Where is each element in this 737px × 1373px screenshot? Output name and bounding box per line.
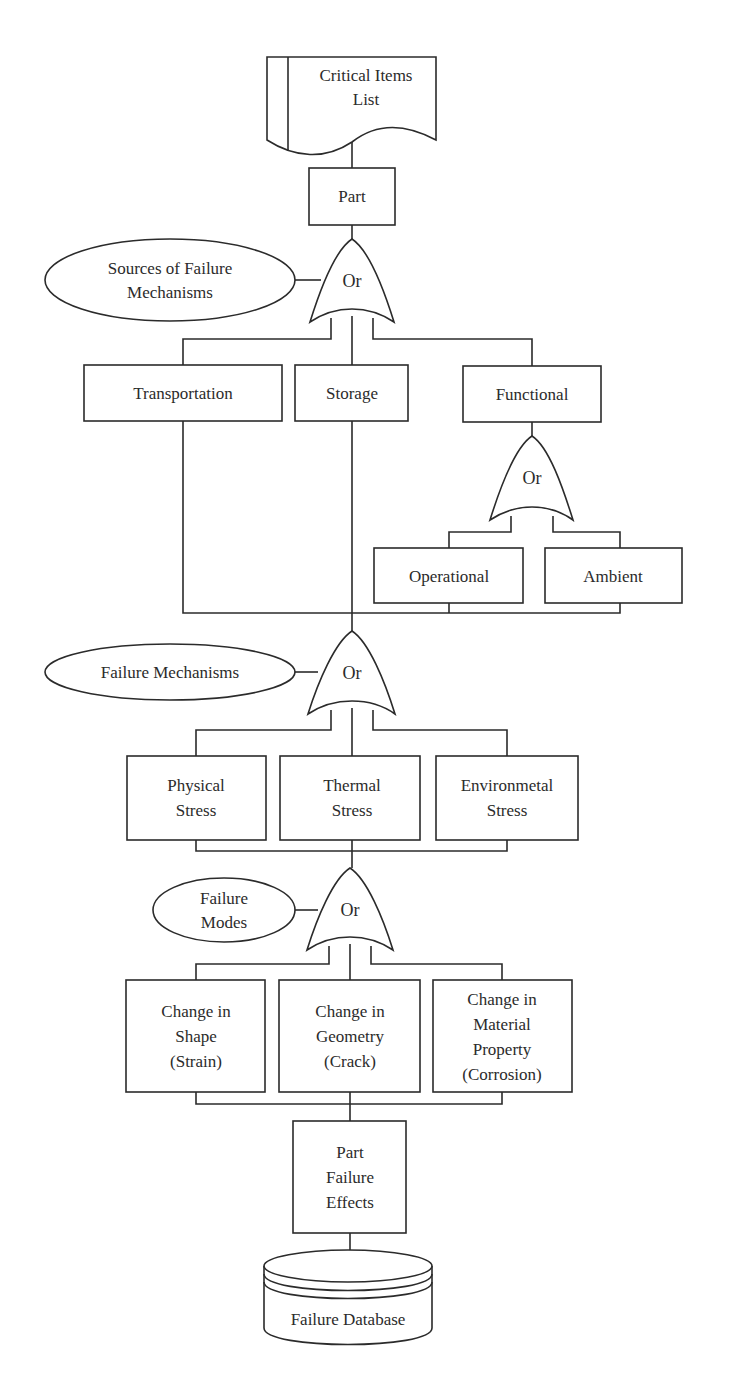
transportation-label: Transportation (133, 384, 233, 403)
environmental-stress-line-1: Environmetal (461, 776, 554, 795)
change-material-line-1: Change in (467, 990, 537, 1009)
or-gate-functional: Or (490, 436, 573, 520)
storage-label: Storage (326, 384, 378, 403)
edge-gate1-to-children (183, 316, 532, 366)
part-box: Part (309, 168, 395, 225)
change-material-line-4: (Corrosion) (462, 1065, 541, 1084)
environmental-stress-line-2: Stress (487, 801, 528, 820)
functional-label: Functional (496, 385, 569, 404)
environmental-stress-box: Environmetal Stress (436, 756, 578, 840)
change-shape-line-2: Shape (175, 1027, 217, 1046)
failure-mechanisms-ellipse: Failure Mechanisms (45, 644, 295, 700)
or-gate-mechanisms-label: Or (343, 663, 362, 683)
failure-modes-ellipse: Failure Modes (153, 878, 295, 942)
change-material-line-2: Material (473, 1015, 531, 1034)
change-shape-line-1: Change in (161, 1002, 231, 1021)
part-failure-effects-line-3: Effects (326, 1193, 374, 1212)
edge-gate3-to-children (196, 708, 507, 756)
storage-box: Storage (295, 365, 408, 421)
or-gate-sources: Or (310, 239, 394, 322)
or-gate-sources-label: Or (343, 271, 362, 291)
change-material-box: Change in Material Property (Corrosion) (433, 980, 572, 1092)
ambient-label: Ambient (583, 567, 643, 586)
sources-label-line-1: Sources of Failure (108, 259, 233, 278)
or-gate-modes-label: Or (341, 900, 360, 920)
sources-of-failure-mechanisms-ellipse: Sources of Failure Mechanisms (45, 239, 295, 321)
physical-stress-line-1: Physical (167, 776, 225, 795)
edge-modes-bus (196, 1092, 502, 1121)
thermal-stress-line-2: Stress (332, 801, 373, 820)
or-gate-functional-label: Or (523, 468, 542, 488)
edge-stress-bus (196, 840, 507, 868)
functional-box: Functional (463, 366, 601, 422)
critical-items-list-document: Critical Items List (267, 57, 436, 155)
change-geometry-line-3: (Crack) (324, 1052, 376, 1071)
or-gate-modes: Or (307, 868, 393, 950)
change-shape-line-3: (Strain) (170, 1052, 222, 1071)
fault-tree-diagram: Critical Items List Part Sources of Fail… (0, 0, 737, 1373)
sources-label-line-2: Mechanisms (127, 283, 213, 302)
operational-label: Operational (409, 567, 490, 586)
change-geometry-line-1: Change in (315, 1002, 385, 1021)
edge-gate4-to-children (196, 944, 502, 980)
failure-database-cylinder: Failure Database (264, 1250, 432, 1345)
ambient-box: Ambient (545, 548, 682, 603)
or-gate-mechanisms: Or (308, 631, 395, 714)
failure-mechanisms-label: Failure Mechanisms (101, 663, 239, 682)
part-failure-effects-box: Part Failure Effects (293, 1121, 406, 1233)
thermal-stress-box: Thermal Stress (280, 756, 420, 840)
failure-database-label: Failure Database (291, 1310, 406, 1329)
physical-stress-box: Physical Stress (127, 756, 266, 840)
failure-modes-line-2: Modes (201, 913, 247, 932)
part-label: Part (338, 187, 366, 206)
part-failure-effects-line-1: Part (336, 1143, 364, 1162)
edge-gate2-to-children (449, 516, 620, 548)
change-geometry-box: Change in Geometry (Crack) (279, 980, 420, 1092)
critical-items-list-line-2: List (353, 90, 380, 109)
change-geometry-line-2: Geometry (316, 1027, 384, 1046)
failure-modes-line-1: Failure (200, 889, 248, 908)
critical-items-list-line-1: Critical Items (319, 66, 412, 85)
part-failure-effects-line-2: Failure (326, 1168, 374, 1187)
thermal-stress-line-1: Thermal (323, 776, 381, 795)
change-shape-box: Change in Shape (Strain) (126, 980, 265, 1092)
change-material-line-3: Property (473, 1040, 532, 1059)
physical-stress-line-2: Stress (176, 801, 217, 820)
operational-box: Operational (374, 548, 523, 603)
transportation-box: Transportation (84, 365, 282, 421)
